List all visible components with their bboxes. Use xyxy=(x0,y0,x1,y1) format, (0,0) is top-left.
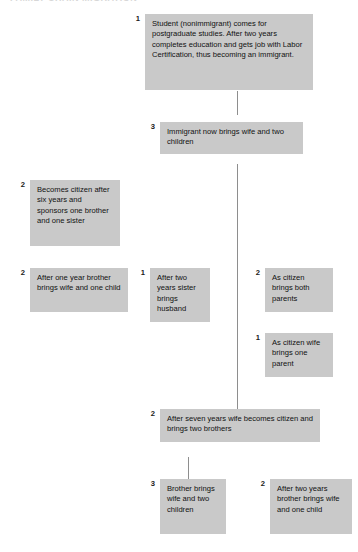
node-becomes-citizen-number: 2 xyxy=(16,180,25,189)
node-wife-brings-parent-number: 1 xyxy=(251,333,260,342)
node-brother-brings-wife-two-children-text: Brother brings wife and two children xyxy=(160,479,226,534)
node-brother-brings-wife-one-child-number: 2 xyxy=(256,479,265,488)
node-citizen-brings-parents-text: As citizen brings both parents xyxy=(265,268,333,312)
node-student-number: 1 xyxy=(131,14,140,23)
cut-off-header-text: FAMILY CHAIN MIGRATION xyxy=(10,0,190,3)
node-wife-brings-parent-text: As citizen wife brings one parent xyxy=(265,333,333,377)
node-brother-brings-wife-one-child-text: After two years brother brings wife and … xyxy=(270,479,352,534)
connector-trunk-main xyxy=(237,164,238,409)
node-wife-becomes-citizen-number: 2 xyxy=(146,409,155,418)
node-sister-brings-husband-number: 1 xyxy=(136,268,145,277)
node-brother-brings-wife-child-text: After one year brother brings wife and o… xyxy=(30,268,128,312)
node-brother-brings-wife-two-children-number: 3 xyxy=(146,479,155,488)
node-sister-brings-husband-text: After two years sister brings husband xyxy=(150,268,210,322)
node-immigrant-brings-family-text: Immigrant now brings wife and two childr… xyxy=(160,122,303,154)
connector-student-to-immigrant xyxy=(237,91,238,115)
node-becomes-citizen-text: Becomes citizen after six years and spon… xyxy=(30,180,120,246)
node-citizen-brings-parents-number: 2 xyxy=(251,268,260,277)
node-brother-brings-wife-child-number: 2 xyxy=(16,268,25,277)
connector-wife-citizen-to-brothers xyxy=(188,457,189,479)
node-wife-becomes-citizen-text: After seven years wife becomes citizen a… xyxy=(160,409,320,442)
chain-migration-flowchart: FAMILY CHAIN MIGRATION 1 Student (nonimm… xyxy=(0,0,358,552)
node-student-text: Student (nonimmigrant) comes for postgra… xyxy=(145,14,313,90)
node-immigrant-brings-family-number: 3 xyxy=(146,122,155,131)
